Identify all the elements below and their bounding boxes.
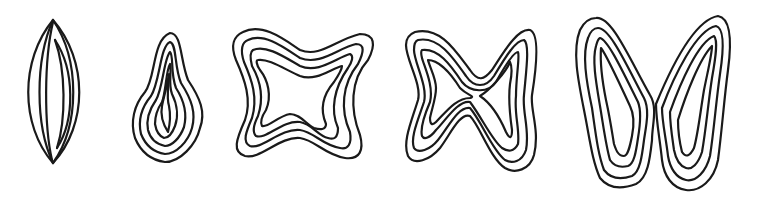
two-wing-shape — [576, 16, 730, 190]
contour-diagram — [0, 0, 760, 206]
diagram-canvas — [0, 0, 760, 206]
four-lobed-shape — [233, 29, 373, 158]
lens-shape — [28, 20, 79, 163]
ovoid-shape — [133, 33, 202, 162]
bowtie-shape — [406, 30, 536, 171]
